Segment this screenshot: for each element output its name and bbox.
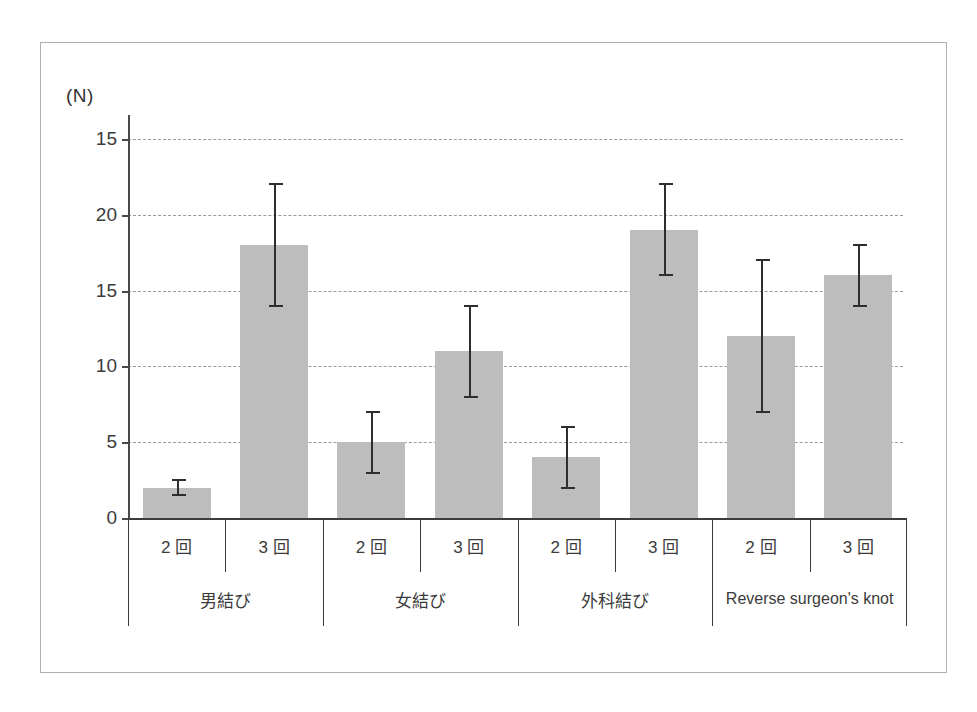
x-axis-tick-label: 2 回 <box>518 518 615 572</box>
error-bar <box>761 260 763 412</box>
x-axis-label-table: 2 回3 回2 回3 回2 回3 回2 回3 回男結び女結び外科結びRevers… <box>128 518 907 626</box>
error-bar-cap-bottom <box>756 411 770 413</box>
x-axis-tick-label: 3 回 <box>225 518 322 572</box>
y-axis-tick-label: 5 <box>106 431 117 453</box>
error-bar <box>469 306 471 397</box>
x-axis-tick-label: 2 回 <box>128 518 225 572</box>
y-axis-tick-label: 0 <box>106 507 117 529</box>
error-bar-cap-top <box>172 479 186 481</box>
gridline <box>128 215 903 216</box>
x-axis-group-label: 外科結び <box>518 572 713 626</box>
error-bar <box>664 184 666 275</box>
error-bar-cap-top <box>366 411 380 413</box>
error-bar-cap-top <box>659 183 673 185</box>
error-bar-cap-bottom <box>172 494 186 496</box>
error-bar <box>566 427 568 488</box>
y-axis-unit-label: (N) <box>66 85 94 107</box>
error-bar-cap-top <box>853 244 867 246</box>
x-axis-tick-label: 3 回 <box>810 518 907 572</box>
error-bar-cap-top <box>269 183 283 185</box>
error-bar-cap-bottom <box>269 305 283 307</box>
x-axis-group-label: 女結び <box>323 572 518 626</box>
x-axis-tick-label: 2 回 <box>323 518 420 572</box>
error-bar-cap-top <box>561 426 575 428</box>
x-axis-group-label: 男結び <box>128 572 323 626</box>
x-axis-tick-label: 2 回 <box>712 518 809 572</box>
error-bar-cap-top <box>756 259 770 261</box>
error-bar-cap-top <box>464 305 478 307</box>
gridline <box>128 139 903 140</box>
y-axis-tick-label: 15 <box>96 128 117 150</box>
error-bar-cap-bottom <box>659 274 673 276</box>
y-axis-tick-label: 20 <box>96 204 117 226</box>
y-axis-tick-label: 15 <box>96 280 117 302</box>
error-bar <box>177 480 179 495</box>
error-bar-cap-bottom <box>464 396 478 398</box>
error-bar-cap-bottom <box>366 472 380 474</box>
error-bar <box>858 245 860 306</box>
error-bar <box>274 184 276 305</box>
error-bar <box>371 412 373 473</box>
y-axis-line <box>128 115 130 518</box>
chart-figure: (N) 0510152015 2 回3 回2 回3 回2 回3 回2 回3 回男… <box>40 42 947 673</box>
bar <box>824 275 892 518</box>
x-axis-tick-label: 3 回 <box>615 518 712 572</box>
x-axis-tick-label: 3 回 <box>420 518 517 572</box>
plot-area: 0510152015 <box>128 139 903 518</box>
y-axis-tick-label: 10 <box>96 355 117 377</box>
x-axis-group-label: Reverse surgeon's knot <box>712 572 907 626</box>
error-bar-cap-bottom <box>561 487 575 489</box>
error-bar-cap-bottom <box>853 305 867 307</box>
